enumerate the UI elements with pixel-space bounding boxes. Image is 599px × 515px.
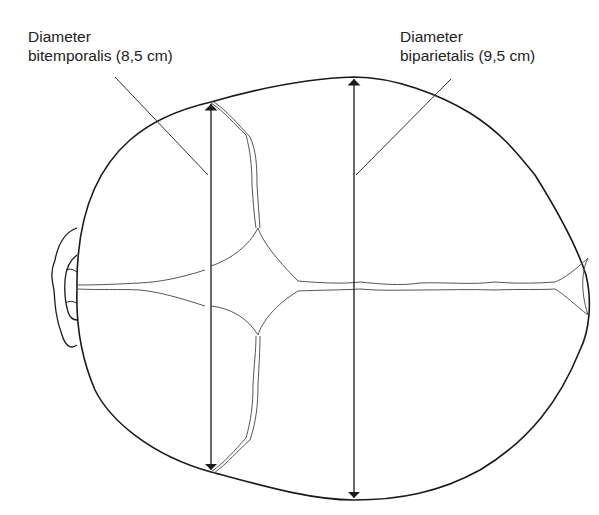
nasal-region bbox=[52, 228, 77, 347]
bitemporal-leader-line bbox=[115, 77, 208, 175]
sagittal-suture bbox=[77, 258, 588, 315]
skull-outline bbox=[77, 77, 590, 500]
anterior-fontanelle bbox=[211, 228, 298, 335]
biparietal-leader-line bbox=[356, 79, 451, 175]
skull-diagram bbox=[0, 0, 599, 515]
coronal-suture bbox=[211, 102, 260, 473]
